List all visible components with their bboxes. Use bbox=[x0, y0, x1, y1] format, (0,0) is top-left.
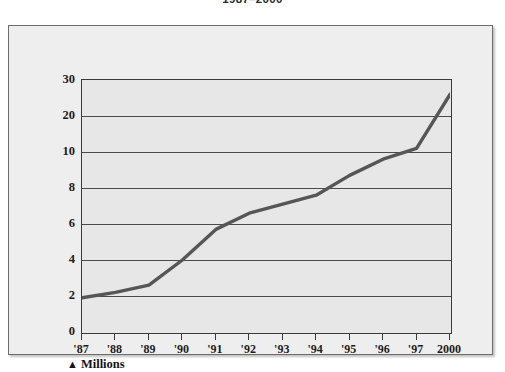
x-axis-tick bbox=[449, 334, 450, 340]
series-line bbox=[82, 94, 450, 297]
x-axis-tick-label: '92 bbox=[241, 342, 256, 357]
plot-area bbox=[81, 79, 452, 334]
y-axis-tick-label: 4 bbox=[41, 252, 75, 267]
x-axis-tick bbox=[215, 334, 216, 340]
x-axis-tick bbox=[148, 334, 149, 340]
y-axis-tick-labels: 02468102030 bbox=[37, 26, 75, 356]
x-axis-tick-label: '88 bbox=[107, 342, 122, 357]
x-axis-tick bbox=[349, 334, 350, 340]
y-axis-tick-label: 6 bbox=[41, 216, 75, 231]
y-axis-tick-label: 2 bbox=[41, 288, 75, 303]
x-axis-tick-label: '95 bbox=[341, 342, 356, 357]
axis-unit-label: Millions bbox=[81, 357, 125, 371]
y-axis-tick-label: 30 bbox=[41, 72, 75, 87]
x-axis-tick-label: '93 bbox=[274, 342, 289, 357]
x-axis-tick-label: '94 bbox=[308, 342, 323, 357]
y-axis-tick-label: 8 bbox=[41, 180, 75, 195]
triangle-marker-icon: ▲ bbox=[67, 358, 78, 370]
axis-unit-note: ▲Millions bbox=[67, 357, 125, 372]
x-axis-tick-label: '97 bbox=[408, 342, 423, 357]
x-axis-tick bbox=[282, 334, 283, 340]
x-axis-tick bbox=[248, 334, 249, 340]
line-series bbox=[82, 80, 450, 332]
chart-frame: 02468102030 '87'88'89'90'91'92'93'94'95'… bbox=[8, 25, 493, 355]
x-axis-tick-label: '91 bbox=[207, 342, 222, 357]
x-axis-tick-label: '89 bbox=[140, 342, 155, 357]
x-axis-tick-label: 2000 bbox=[437, 342, 461, 357]
y-axis-tick-label: 20 bbox=[41, 108, 75, 123]
x-axis-tick-label: '90 bbox=[174, 342, 189, 357]
x-axis-tick bbox=[181, 334, 182, 340]
x-axis-tick bbox=[81, 334, 82, 340]
x-axis-tick bbox=[382, 334, 383, 340]
x-axis-tick-label: '96 bbox=[374, 342, 389, 357]
x-axis-tick-labels: '87'88'89'90'91'92'93'94'95'96'972000 bbox=[81, 342, 452, 358]
x-axis-tick bbox=[114, 334, 115, 340]
y-axis-tick-label: 10 bbox=[41, 144, 75, 159]
x-axis-tick bbox=[315, 334, 316, 340]
page-title: 1987–2000 bbox=[0, 0, 505, 5]
x-axis-ticks bbox=[81, 334, 452, 341]
x-axis-tick bbox=[416, 334, 417, 340]
y-axis-tick-label: 0 bbox=[41, 324, 75, 339]
x-axis-tick-label: '87 bbox=[73, 342, 88, 357]
